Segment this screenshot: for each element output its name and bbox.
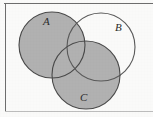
frame-rule-bottom — [5, 111, 153, 112]
venn-diagram-canvas — [0, 0, 153, 117]
frame-rule-left — [5, 3, 6, 112]
venn-diagram-figure: A B C — [0, 0, 153, 117]
set-label-a: A — [43, 16, 50, 27]
set-label-c: C — [80, 92, 87, 103]
set-label-b: B — [115, 22, 122, 33]
frame-rule-top — [4, 3, 153, 4]
shaded-region-a-union-c — [0, 0, 153, 117]
